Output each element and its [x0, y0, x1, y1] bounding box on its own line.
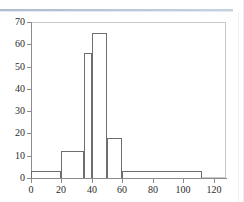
histogram-bar: [61, 151, 84, 178]
y-axis-tick: [27, 111, 31, 112]
histogram-bars: [0, 0, 244, 202]
y-axis-tick: [27, 44, 31, 45]
x-axis-tick: [183, 179, 184, 183]
histogram-bar: [84, 53, 92, 178]
y-axis-tick: [27, 22, 31, 23]
y-axis-tick: [27, 133, 31, 134]
x-axis-tick: [61, 179, 62, 183]
x-axis-tick-label: 40: [80, 185, 104, 195]
histogram-bar: [31, 171, 61, 178]
x-axis-tick: [214, 179, 215, 183]
histogram-chart: 010203040506070 020406080100120: [0, 0, 244, 202]
histogram-bar: [122, 171, 201, 178]
y-axis-tick-label: 40: [0, 84, 25, 94]
x-axis-tick-label: 0: [19, 185, 43, 195]
y-axis-tick: [27, 156, 31, 157]
screenshot-root: 010203040506070 020406080100120: [0, 0, 244, 202]
histogram-bar: [92, 33, 107, 178]
histogram-bar: [107, 138, 122, 178]
x-axis-tick: [122, 179, 123, 183]
x-axis-tick: [153, 179, 154, 183]
y-axis-tick-label: 70: [0, 17, 25, 27]
y-axis-tick-label: 50: [0, 62, 25, 72]
x-axis-tick-label: 120: [202, 185, 226, 195]
y-axis-tick: [27, 89, 31, 90]
y-axis-tick: [27, 67, 31, 68]
y-axis-tick-label: 0: [0, 173, 25, 183]
y-axis-tick-label: 20: [0, 128, 25, 138]
x-axis-tick: [92, 179, 93, 183]
x-axis-tick-label: 100: [171, 185, 195, 195]
x-axis-tick-label: 20: [49, 185, 73, 195]
x-axis-tick: [31, 179, 32, 183]
x-axis-tick-label: 80: [141, 185, 165, 195]
y-axis-tick-label: 60: [0, 39, 25, 49]
y-axis-tick-label: 30: [0, 106, 25, 116]
x-axis-tick-label: 60: [110, 185, 134, 195]
y-axis-tick-label: 10: [0, 151, 25, 161]
